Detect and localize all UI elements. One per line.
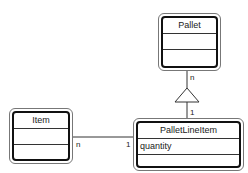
class-name: PalletLineItem — [138, 123, 239, 139]
class-palletlineitem[interactable]: PalletLineItem quantity — [133, 118, 244, 171]
multiplicity-pli-top-end: 1 — [190, 109, 194, 117]
triangle-arrowhead-icon — [175, 88, 199, 102]
class-attributes — [14, 129, 68, 145]
class-item-frame: Item — [12, 111, 70, 161]
class-operations — [14, 145, 68, 159]
multiplicity-pallet-end: n — [190, 74, 194, 82]
class-operations — [138, 155, 239, 166]
multiplicity-item-end: n — [76, 141, 80, 149]
class-pallet[interactable]: Pallet — [158, 13, 221, 71]
class-attributes — [163, 34, 216, 50]
class-item[interactable]: Item — [9, 108, 73, 164]
class-name: Pallet — [163, 18, 216, 34]
class-attributes: quantity — [138, 139, 239, 155]
class-pallet-frame: Pallet — [161, 16, 218, 68]
class-operations — [163, 50, 216, 66]
multiplicity-pli-left-end: 1 — [126, 141, 130, 149]
class-name: Item — [14, 113, 68, 129]
class-palletlineitem-frame: PalletLineItem quantity — [136, 121, 241, 168]
